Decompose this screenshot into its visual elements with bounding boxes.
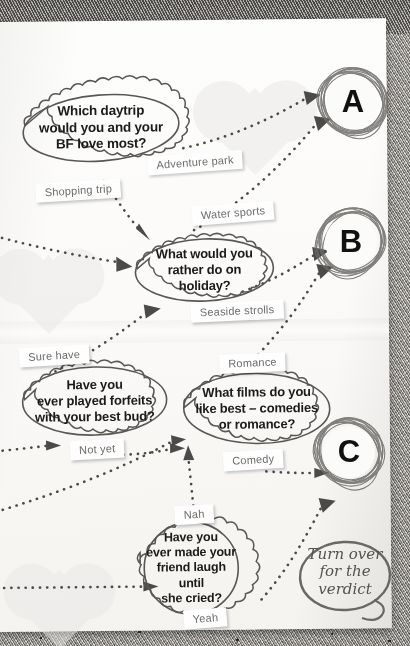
question-bubble-3[interactable]: Have you ever played forfeits with your … (15, 358, 174, 444)
result-letter-c: C (306, 413, 392, 491)
result-letter-b: B (308, 203, 394, 281)
answer-tag-yeah[interactable]: Yeah (183, 607, 228, 629)
question-text-3: Have you ever played forfeits with your … (15, 358, 174, 444)
answer-tag-comedy[interactable]: Comedy (223, 449, 284, 472)
question-bubble-2[interactable]: What would you rather do on holiday? (128, 231, 281, 308)
result-circle-c[interactable]: C (306, 413, 392, 491)
turn-over-text: Turn over for the verdict (296, 546, 394, 598)
question-bubble-5[interactable]: Have you ever made your friend laugh unt… (135, 514, 248, 623)
turn-over-note[interactable]: Turn over for the verdict (296, 534, 394, 622)
answer-tag-not-yet[interactable]: Not yet (70, 439, 125, 461)
question-text-2: What would you rather do on holiday? (128, 231, 281, 308)
answer-tag-romance[interactable]: Romance (219, 352, 286, 374)
answer-tag-nah[interactable]: Nah (174, 504, 214, 525)
quiz-page: Which daytrip would you and your BF love… (0, 0, 410, 646)
result-circle-b[interactable]: B (308, 203, 394, 281)
result-letter-a: A (310, 63, 396, 141)
result-circle-a[interactable]: A (310, 63, 396, 141)
question-text-5: Have you ever made your friend laugh unt… (135, 514, 248, 623)
